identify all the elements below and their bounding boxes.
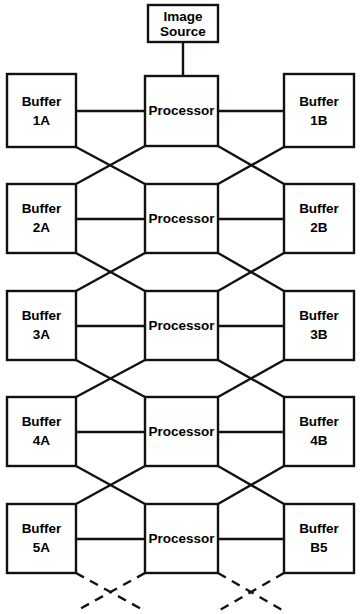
node-processor-5[interactable]: Processor — [145, 504, 218, 573]
buffer-2a-label-line2: 2A — [33, 220, 51, 235]
node-buffer-3a[interactable]: Buffer 3A — [7, 291, 76, 360]
stage-row-2: Buffer 2A Processor Buffer 2B — [7, 184, 354, 253]
buffer-5a-box[interactable] — [7, 504, 76, 573]
buffer-1b-label-line1: Buffer — [299, 94, 339, 109]
diagram-root: Image Source Buffer 1A Processor Buffer … — [0, 0, 361, 614]
buffer-3a-label-line2: 3A — [33, 327, 51, 342]
buffer-4a-label-line1: Buffer — [22, 414, 62, 429]
processor-4-label: Processor — [148, 424, 215, 439]
node-buffer-4a[interactable]: Buffer 4A — [7, 397, 76, 466]
buffer-3a-label-line1: Buffer — [22, 308, 62, 323]
node-buffer-2b[interactable]: Buffer 2B — [284, 184, 354, 253]
buffer-4b-label-line2: 4B — [310, 433, 328, 448]
crossover-right-1-2 — [218, 146, 284, 184]
buffer-2b-label-line1: Buffer — [299, 201, 339, 216]
buffer-3a-box[interactable] — [7, 291, 76, 360]
stage-row-3: Buffer 3A Processor Buffer 3B — [7, 291, 354, 360]
crossover-left-2-3 — [76, 253, 145, 291]
buffer-1a-box[interactable] — [7, 74, 76, 147]
continuation-left — [76, 573, 145, 611]
crossover-left-4-5 — [76, 466, 145, 504]
crossover-left-3-4 — [76, 360, 145, 397]
buffer-2a-label-line1: Buffer — [22, 201, 62, 216]
buffer-4a-label-line2: 4A — [33, 433, 51, 448]
crossover-right-3-4 — [218, 360, 284, 397]
buffer-b5-box[interactable] — [284, 504, 354, 573]
buffer-2b-label-line2: 2B — [310, 220, 328, 235]
buffer-5a-label-line1: Buffer — [22, 521, 62, 536]
crossover-right-4-5 — [218, 466, 284, 504]
buffer-b5-label-line1: Buffer — [299, 521, 339, 536]
buffer-4a-box[interactable] — [7, 397, 76, 466]
node-processor-2[interactable]: Processor — [145, 184, 218, 253]
node-buffer-5a[interactable]: Buffer 5A — [7, 504, 76, 573]
buffer-3b-label-line1: Buffer — [299, 308, 339, 323]
node-processor-3[interactable]: Processor — [145, 291, 218, 360]
processor-3-label: Processor — [148, 318, 215, 333]
node-image-source[interactable]: Image Source — [148, 5, 218, 42]
block-diagram: Image Source Buffer 1A Processor Buffer … — [0, 0, 361, 614]
processor-2-label: Processor — [148, 211, 215, 226]
image-source-label-line1: Image — [163, 9, 203, 24]
buffer-3b-box[interactable] — [284, 291, 354, 360]
buffer-3b-label-line2: 3B — [310, 327, 328, 342]
node-buffer-b5[interactable]: Buffer B5 — [284, 504, 354, 573]
node-buffer-4b[interactable]: Buffer 4B — [284, 397, 354, 466]
buffer-4b-box[interactable] — [284, 397, 354, 466]
crossover-left-1-2 — [76, 146, 145, 184]
node-processor-4[interactable]: Processor — [145, 397, 218, 466]
processor-5-label: Processor — [148, 531, 215, 546]
buffer-b5-label-line2: B5 — [310, 540, 328, 555]
node-buffer-1a[interactable]: Buffer 1A — [7, 74, 76, 147]
node-buffer-2a[interactable]: Buffer 2A — [7, 184, 76, 253]
continuation-right — [218, 573, 284, 611]
stage-row-5: Buffer 5A Processor Buffer B5 — [7, 504, 354, 573]
buffer-1b-box[interactable] — [284, 74, 354, 147]
buffer-1a-label-line2: 1A — [33, 113, 51, 128]
stage-row-4: Buffer 4A Processor Buffer 4B — [7, 397, 354, 466]
crossover-right-2-3 — [218, 253, 284, 291]
buffer-1b-label-line2: 1B — [310, 113, 328, 128]
node-buffer-1b[interactable]: Buffer 1B — [284, 74, 354, 147]
image-source-label-line2: Source — [160, 24, 206, 39]
buffer-2b-box[interactable] — [284, 184, 354, 253]
node-processor-1[interactable]: Processor — [145, 76, 218, 146]
stage-row-1: Buffer 1A Processor Buffer 1B — [7, 74, 354, 147]
buffer-1a-label-line1: Buffer — [22, 94, 62, 109]
processor-1-label: Processor — [148, 103, 215, 118]
buffer-4b-label-line1: Buffer — [299, 414, 339, 429]
buffer-5a-label-line2: 5A — [33, 540, 51, 555]
buffer-2a-box[interactable] — [7, 184, 76, 253]
node-buffer-3b[interactable]: Buffer 3B — [284, 291, 354, 360]
